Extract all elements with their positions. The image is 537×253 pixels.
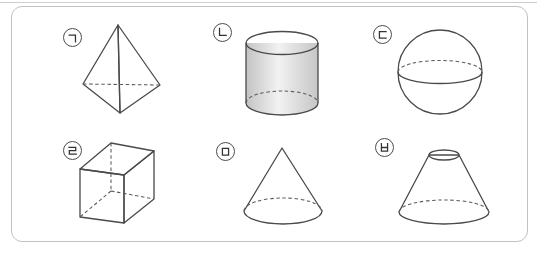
pyramid-hidden-edge bbox=[83, 84, 160, 85]
hangul-digeut-glyph bbox=[377, 29, 388, 40]
cube-right-face bbox=[124, 151, 154, 223]
hangul-mieum-glyph bbox=[220, 146, 231, 157]
cube-shape bbox=[80, 143, 154, 223]
label-circle-truncated-cone bbox=[375, 138, 394, 157]
cone-hidden-base-arc bbox=[244, 198, 322, 211]
frustum-hidden-base-arc bbox=[399, 200, 489, 212]
frustum-body bbox=[399, 155, 489, 224]
sphere-shape bbox=[398, 30, 482, 114]
label-circle-pyramid bbox=[63, 28, 82, 47]
label-circle-cone bbox=[216, 142, 235, 161]
sphere-body bbox=[398, 30, 482, 114]
cylinder-shape bbox=[246, 32, 318, 115]
pyramid-left-face bbox=[83, 25, 120, 113]
pyramid-right-face bbox=[118, 25, 160, 113]
worksheet-figure bbox=[0, 0, 537, 253]
cone-shape bbox=[244, 148, 322, 224]
hangul-nieun-glyph bbox=[217, 27, 228, 38]
truncated-cone-shape bbox=[399, 150, 489, 224]
triangular-pyramid-shape bbox=[83, 25, 160, 113]
label-circle-cylinder bbox=[213, 23, 232, 42]
cube-hidden-edges bbox=[80, 143, 154, 217]
label-circle-cube bbox=[63, 141, 82, 160]
sphere-hidden-equator bbox=[398, 61, 482, 73]
label-circle-sphere bbox=[373, 25, 392, 44]
sphere-front-equator bbox=[398, 72, 482, 84]
hangul-bieup-glyph bbox=[379, 142, 390, 153]
cone-body bbox=[244, 148, 322, 224]
cylinder-body bbox=[246, 43, 318, 115]
cube-front-face bbox=[80, 169, 124, 223]
hangul-rieul-glyph bbox=[67, 145, 78, 156]
hangul-giyeok-glyph bbox=[67, 32, 78, 43]
